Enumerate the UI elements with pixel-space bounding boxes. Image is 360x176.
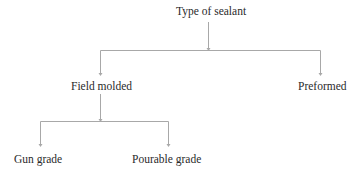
arrow-head-icon: [99, 73, 103, 76]
sealant-type-tree-diagram: Type of sealant Field molded Preformed G…: [0, 0, 360, 176]
arrow-head-icon: [167, 144, 171, 147]
node-pourable-grade: Pourable grade: [132, 154, 201, 166]
node-gun-grade: Gun grade: [14, 154, 62, 166]
node-preformed: Preformed: [298, 81, 347, 93]
arrow-head-icon: [319, 73, 323, 76]
node-type-of-sealant: Type of sealant: [176, 6, 246, 18]
arrow-head-icon: [39, 144, 43, 147]
node-field-molded: Field molded: [71, 81, 132, 93]
